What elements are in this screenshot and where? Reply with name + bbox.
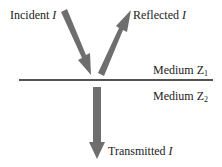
incident-label: Incident I [10,8,56,22]
reflected-arrow [98,10,131,76]
medium2-label: Medium Z2 [153,89,208,107]
reflected-label: Reflected I [133,8,186,22]
diagram-canvas [0,0,222,167]
transmitted-arrow [89,87,105,159]
transmitted-label: Transmitted I [108,144,173,158]
incident-arrow [61,9,91,75]
medium1-label: Medium Z1 [153,63,208,81]
